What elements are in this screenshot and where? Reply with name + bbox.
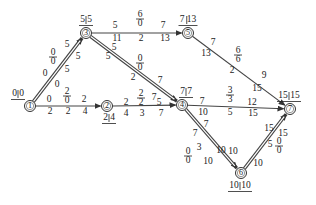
latest-finish: 13 <box>160 33 170 43</box>
duration: 5 <box>228 107 233 117</box>
float-fraction-top: 0 <box>51 47 56 57</box>
edge-1-3 <box>33 38 82 101</box>
float-fraction-bottom: 0 <box>277 145 282 155</box>
node-time-label: 1010 <box>228 180 252 191</box>
node-number: 6 <box>239 168 243 177</box>
float-fraction-bottom: 0 <box>65 95 70 105</box>
float-fraction-bottom: 0 <box>138 62 143 72</box>
edge-labels-4-7: 7105121533 <box>198 85 258 119</box>
float-fraction-top: 6 <box>236 45 241 55</box>
float-fraction-top: 3 <box>228 85 233 95</box>
latest-finish: 4 <box>83 106 88 116</box>
edge-labels-5-7: 713291566 <box>201 37 266 93</box>
earliest-start: 0 <box>47 94 52 104</box>
duration: 5 <box>268 139 273 149</box>
float-fraction: 20 <box>63 86 71 106</box>
earliest-finish: 2 <box>82 94 87 104</box>
node-time-label: 713 <box>179 14 198 25</box>
node-time-label: 1515 <box>277 90 301 101</box>
latest-start: 4 <box>124 108 129 118</box>
earliest-finish: 7 <box>158 75 163 85</box>
float-fraction: 00 <box>275 136 283 156</box>
labels-layer: 0055500022242051127136055277002457322713… <box>43 9 288 169</box>
duration: 3 <box>197 142 202 152</box>
node-number: 1 <box>28 101 32 110</box>
earliest-finish: 5 <box>157 97 162 107</box>
latest-finish: 7 <box>159 108 164 118</box>
float-fraction-top: 0 <box>277 136 282 146</box>
latest-time: 0 <box>19 88 24 98</box>
edge-labels-3-5: 511271360 <box>112 9 170 44</box>
latest-time: 13 <box>187 14 197 24</box>
duration: 2 <box>66 106 71 116</box>
node-2: 224 <box>102 101 117 124</box>
node-number: 3 <box>84 28 88 37</box>
float-fraction: 66 <box>234 45 242 65</box>
float-fraction-bottom: 0 <box>138 18 143 28</box>
node-number: 7 <box>288 104 292 113</box>
latest-time: 15 <box>290 90 300 100</box>
earliest-time: 10 <box>229 180 239 190</box>
node-number: 4 <box>180 100 184 109</box>
float-fraction-top: 2 <box>65 86 70 96</box>
duration: 2 <box>230 65 235 75</box>
node-time-label: 77 <box>179 86 193 97</box>
edge-labels-6-7: 10105151500 <box>228 123 288 168</box>
earliest-time: 7 <box>180 86 185 96</box>
latest-start: 0 <box>43 68 48 78</box>
latest-start: 13 <box>201 48 211 58</box>
latest-finish: 15 <box>264 123 274 133</box>
float-fraction-top: 0 <box>186 146 191 156</box>
node-time-label: 55 <box>79 14 93 25</box>
float-fraction-top: 6 <box>138 9 143 19</box>
node-3: 355 <box>79 14 93 38</box>
latest-start: 10 <box>198 107 208 117</box>
edge-labels-4-6: 773101000 <box>184 119 226 166</box>
earliest-time: 15 <box>278 90 288 100</box>
latest-time: 7 <box>187 86 192 96</box>
edge-labels-3-4: 5527700 <box>106 42 163 102</box>
earliest-time: 0 <box>12 88 17 98</box>
node-1: 100 <box>11 88 36 111</box>
float-fraction: 00 <box>49 47 57 67</box>
earliest-time: 7 <box>180 14 185 24</box>
earliest-start: 2 <box>124 97 129 107</box>
float-fraction: 33 <box>226 85 234 105</box>
float-fraction-bottom: 0 <box>186 155 191 165</box>
edge-2-4 <box>112 105 175 106</box>
earliest-start: 0 <box>55 79 60 89</box>
node-time-label: 24 <box>102 112 116 123</box>
float-fraction-top: 2 <box>139 88 144 98</box>
latest-start: 7 <box>193 128 198 138</box>
node-5: 5713 <box>179 14 198 38</box>
float-fraction: 60 <box>136 9 144 29</box>
earliest-start: 7 <box>200 96 205 106</box>
duration: 2 <box>139 33 144 43</box>
edge-3-4 <box>90 36 176 101</box>
latest-finish: 10 <box>203 156 213 166</box>
node-6: 61010 <box>228 168 252 192</box>
latest-finish: 15 <box>248 108 258 118</box>
earliest-start: 5 <box>113 20 118 30</box>
float-fraction: 00 <box>136 53 144 73</box>
latest-finish: 5 <box>76 51 81 61</box>
earliest-start: 7 <box>204 119 209 129</box>
earliest-finish: 9 <box>262 70 267 80</box>
float-fraction: 22 <box>137 88 145 108</box>
latest-start: 2 <box>48 106 53 116</box>
latest-finish: 15 <box>252 83 262 93</box>
node-number: 2 <box>105 101 109 110</box>
edge-labels-1-2: 0222420 <box>47 86 88 117</box>
float-fraction-bottom: 6 <box>236 54 241 64</box>
earliest-start: 7 <box>211 37 216 47</box>
earliest-finish: 10 <box>216 145 226 155</box>
latest-start: 10 <box>253 158 263 168</box>
latest-time: 4 <box>110 112 115 122</box>
float-fraction-top: 0 <box>138 53 143 63</box>
earliest-finish: 7 <box>161 20 166 30</box>
float-fraction-bottom: 0 <box>51 56 56 66</box>
earliest-finish: 5 <box>65 39 70 49</box>
float-fraction-bottom: 3 <box>228 94 233 104</box>
node-4: 477 <box>177 86 194 110</box>
float-fraction-bottom: 2 <box>139 97 144 107</box>
